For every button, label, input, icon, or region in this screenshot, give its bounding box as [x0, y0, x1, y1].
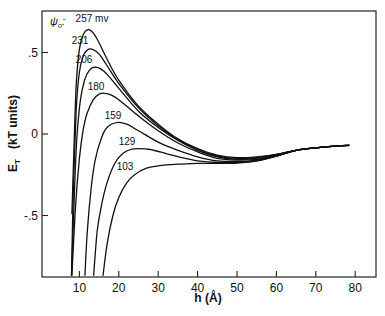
x-tick-label: 60	[270, 281, 284, 295]
x-tick-label: 50	[230, 281, 244, 295]
curve-label: 159	[105, 110, 122, 121]
curve-label: 129	[119, 136, 136, 147]
y-tick-label: 0	[31, 127, 38, 141]
x-tick-label: 80	[349, 281, 363, 295]
curve-257-mv	[72, 30, 349, 214]
x-tick-label: 70	[309, 281, 323, 295]
x-tick-label: 10	[73, 281, 87, 295]
x-tick-label: 30	[152, 281, 166, 295]
plot-frame	[42, 11, 376, 277]
curve-label: 180	[88, 81, 105, 92]
curve-label: 257 mv	[76, 13, 109, 24]
curve-label: 103	[117, 161, 134, 172]
x-axis-title: h (Å)	[194, 290, 221, 305]
curve-label: 206	[76, 54, 93, 65]
y-axis-ticks: .50-.5	[24, 46, 48, 223]
svg-text:ET(kT units): ET(kT units)	[6, 95, 22, 172]
y-tick-label: -.5	[24, 209, 38, 223]
y-axis-title: ET(kT units)	[6, 95, 22, 172]
curves	[72, 30, 350, 276]
chart: 1020304050607080 .50-.5 257 mv2312061801…	[0, 0, 385, 316]
legend-psi-symbol: ψo:	[50, 15, 65, 29]
curve-103	[103, 145, 349, 275]
curve-label: 231	[72, 35, 89, 46]
curve-206	[72, 67, 350, 276]
x-tick-label: 20	[112, 281, 126, 295]
y-tick-label: .5	[28, 46, 38, 60]
